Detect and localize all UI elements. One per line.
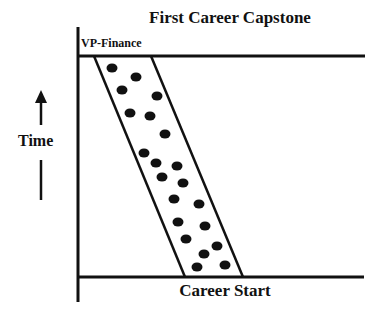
cohort-dot (181, 235, 192, 244)
cohort-dot (157, 173, 168, 182)
cohort-dot (178, 179, 189, 188)
cohort-dots (107, 64, 231, 272)
cohort-dot (160, 130, 171, 139)
diagram-canvas (0, 0, 385, 320)
cohort-dot (199, 250, 210, 259)
arrow-up-icon (35, 90, 47, 125)
cohort-dot (145, 112, 156, 121)
cohort-dot (169, 195, 180, 204)
cohort-dot (194, 200, 205, 209)
time-axis-label: Time (18, 132, 53, 150)
bottom-level-label: Career Start (160, 281, 290, 301)
cohort-dot (131, 73, 142, 82)
cohort-dot (173, 218, 184, 227)
band-left-edge (94, 56, 185, 277)
cohort-dot (172, 162, 183, 171)
cohort-dot (117, 86, 128, 95)
cohort-dot (107, 64, 118, 73)
cohort-dot (151, 159, 162, 168)
cohort-dot (192, 263, 203, 272)
cohort-dot (220, 261, 231, 270)
cohort-dot (212, 242, 223, 251)
cohort-dot (139, 149, 150, 158)
cohort-dot (125, 109, 136, 118)
cohort-dot (152, 92, 163, 101)
diagram-title: First Career Capstone (140, 8, 320, 28)
cohort-dot (200, 222, 211, 231)
band-right-edge (151, 56, 243, 277)
top-level-label: VP-Finance (81, 36, 142, 51)
